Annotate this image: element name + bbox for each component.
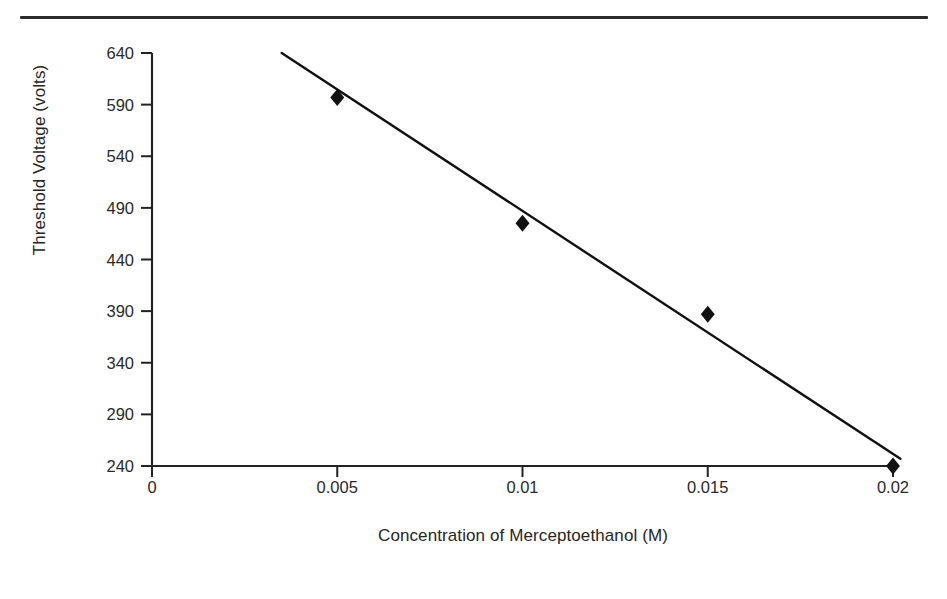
x-axis-ticks	[152, 466, 893, 477]
data-point-marker	[701, 306, 715, 323]
data-point-marker	[516, 215, 530, 232]
axis-lines	[152, 53, 899, 466]
y-axis-ticks	[141, 53, 152, 466]
plot-area	[0, 0, 947, 599]
data-point-markers	[330, 89, 900, 475]
trend-line	[282, 53, 901, 459]
data-point-marker	[886, 458, 900, 475]
trend-line-segment	[282, 53, 901, 459]
chart-figure: Threshold Voltage (volts) Concentration …	[0, 0, 947, 599]
